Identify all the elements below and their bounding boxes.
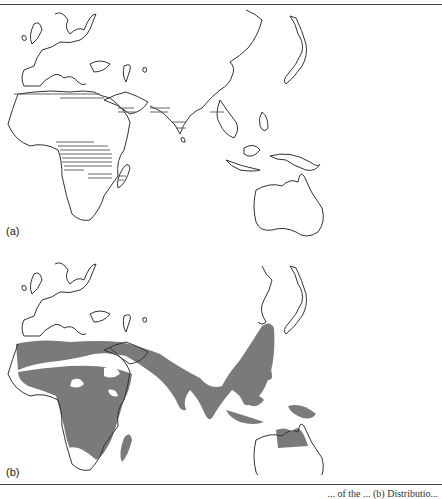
map-a-svg xyxy=(0,0,442,245)
panel-a-label: (a) xyxy=(6,225,19,237)
map-panel-a: (a) xyxy=(0,0,442,245)
map-panel-b: (b) xyxy=(0,250,442,475)
bottom-rule xyxy=(0,484,442,485)
figure-caption: ... of the ... (b) Distributio... xyxy=(0,488,442,499)
distribution-shading xyxy=(16,323,316,462)
map-b-svg xyxy=(0,250,442,475)
panel-b-label: (b) xyxy=(6,466,19,478)
